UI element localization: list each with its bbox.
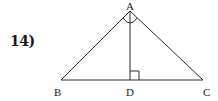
vertex-label-b: B [54, 86, 61, 98]
vertex-label-d: D [126, 86, 134, 98]
side-ac [130, 11, 203, 80]
triangle-diagram: A B C D [0, 0, 218, 101]
vertex-label-c: C [203, 86, 210, 98]
side-ab [61, 11, 130, 80]
angle-arc-left-icon [123, 18, 130, 23]
angle-arc-right-icon [130, 18, 137, 23]
vertex-label-a: A [126, 0, 134, 12]
right-angle-mark-icon [130, 71, 139, 80]
